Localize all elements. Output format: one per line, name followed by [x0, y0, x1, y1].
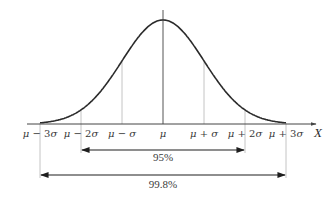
- tick-label: μ + σ: [190, 128, 219, 139]
- interval-percent-label: 95%: [153, 151, 173, 163]
- tick-label: μ: [160, 128, 167, 139]
- tick-label: μ + 3σ: [269, 128, 305, 139]
- normal-distribution-diagram: X μ − 3σμ − 2σμ − σμμ + σμ + 2σμ + 3σ 95…: [0, 0, 336, 202]
- tick-labels: μ − 3σμ − 2σμ − σμμ + σμ + 2σμ + 3σ: [23, 128, 305, 139]
- tick-label: μ − σ: [108, 128, 137, 139]
- tick-label: μ − 2σ: [64, 128, 100, 139]
- interval-arrows: 95%99.8%: [41, 150, 285, 190]
- tick-label: μ − 3σ: [23, 128, 59, 139]
- x-axis-label: X: [313, 125, 323, 140]
- interval-percent-label: 99.8%: [149, 178, 177, 190]
- tick-label: μ + 2σ: [228, 128, 264, 139]
